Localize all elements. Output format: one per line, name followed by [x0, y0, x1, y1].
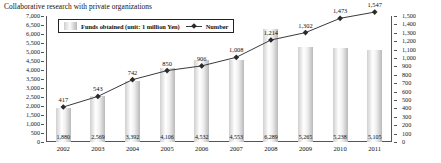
left-axis-tick — [41, 25, 44, 26]
right-axis-tick — [394, 50, 397, 51]
legend-bars-label: Funds obtained (unit: 1 million Yen) — [81, 23, 180, 30]
left-axis-tick — [41, 43, 44, 44]
right-axis-tick — [394, 41, 397, 42]
left-axis-tick — [41, 97, 44, 98]
right-axis-tick — [394, 75, 397, 76]
bar-value-label: 1,880 — [46, 134, 80, 140]
chart-legend: Funds obtained (unit: 1 million Yen) Num… — [58, 19, 234, 33]
left-axis-tick — [41, 61, 44, 62]
right-axis-tick-label: 1,000 — [402, 55, 416, 61]
line-value-label: 1,008 — [219, 47, 253, 53]
left-axis-tick-label: 2,000 — [26, 103, 40, 109]
right-axis-tick — [394, 125, 397, 126]
right-axis-tick-label: 200 — [402, 122, 411, 128]
x-axis-label: 2003 — [81, 146, 115, 153]
right-axis-tick — [394, 24, 397, 25]
right-axis-tick — [394, 66, 397, 67]
left-axis-tick-label: 4,000 — [26, 67, 40, 73]
left-axis-tick-label: 3,000 — [26, 85, 40, 91]
bar-value-label: 5,238 — [323, 134, 357, 140]
chart-title: Collaborative research with private orga… — [4, 2, 152, 11]
plot-area — [46, 16, 392, 142]
line-marker — [233, 54, 239, 60]
line-marker — [164, 68, 170, 74]
right-axis-tick-label: 800 — [402, 72, 411, 78]
right-axis-tick-label: 900 — [402, 63, 411, 69]
bar-value-label: 4,553 — [219, 134, 253, 140]
left-axis-tick-label: 7,000 — [26, 13, 40, 19]
left-axis-tick-label: 0 — [37, 139, 40, 145]
right-axis-tick-label: 700 — [402, 80, 411, 86]
left-axis-tick — [41, 16, 44, 17]
line-value-label: 742 — [116, 70, 150, 76]
left-axis-tick-label: 4,500 — [26, 58, 40, 64]
right-axis-tick-label: 400 — [402, 105, 411, 111]
right-axis-tick — [394, 83, 397, 84]
x-axis-label: 2009 — [289, 146, 323, 153]
line-marker — [199, 63, 205, 69]
right-axis-tick-label: 1,200 — [402, 38, 416, 44]
right-axis-tick — [394, 134, 397, 135]
right-axis-tick-label: 1,300 — [402, 30, 416, 36]
right-axis-tick-label: 300 — [402, 114, 411, 120]
bar-value-label: 5,105 — [358, 134, 392, 140]
left-axis-tick — [41, 133, 44, 134]
line-value-label: 850 — [150, 61, 184, 67]
bar-value-label: 4,106 — [150, 134, 184, 140]
left-axis-tick-label: 1,500 — [26, 112, 40, 118]
bar-value-label: 6,289 — [254, 134, 288, 140]
line-value-label: 1,214 — [254, 30, 288, 36]
legend-line-label: Number — [206, 23, 229, 30]
left-axis: 7,0006,5006,0005,5005,0004,5004,0003,500… — [0, 16, 44, 142]
bar-value-label: 4,532 — [185, 134, 219, 140]
left-axis-tick-label: 6,500 — [26, 22, 40, 28]
right-axis-tick-label: 100 — [402, 131, 411, 137]
right-axis-tick — [394, 142, 397, 143]
right-axis-tick — [394, 108, 397, 109]
x-axis-label: 2008 — [254, 146, 288, 153]
right-axis-tick — [394, 33, 397, 34]
x-axis-label: 2006 — [185, 146, 219, 153]
x-axis-label: 2011 — [358, 146, 392, 153]
left-axis-tick-label: 6,000 — [26, 31, 40, 37]
left-axis-tick-label: 5,000 — [26, 49, 40, 55]
line-marker — [130, 77, 136, 83]
chart-root: Collaborative research with private orga… — [0, 0, 441, 163]
right-axis-tick — [394, 117, 397, 118]
line-marker — [95, 94, 101, 100]
left-axis-tick-label: 1,000 — [26, 121, 40, 127]
right-axis-tick — [394, 92, 397, 93]
left-axis-tick — [41, 124, 44, 125]
line-value-label: 1,547 — [358, 2, 392, 8]
right-axis-tick-label: 600 — [402, 89, 411, 95]
line-marker — [372, 9, 378, 15]
line-marker — [268, 37, 274, 43]
right-axis-tick — [394, 16, 397, 17]
bar-value-label: 2,569 — [81, 134, 115, 140]
line-marker-icon — [186, 23, 202, 29]
right-axis-tick — [394, 100, 397, 101]
left-axis-tick-label: 2,500 — [26, 94, 40, 100]
line-series — [46, 16, 392, 142]
left-axis-tick — [41, 34, 44, 35]
line-value-label: 417 — [46, 97, 80, 103]
x-axis-label: 2010 — [323, 146, 357, 153]
left-axis-tick — [41, 88, 44, 89]
line-marker — [60, 104, 66, 110]
left-axis-tick — [41, 52, 44, 53]
x-axis-label: 2004 — [116, 146, 150, 153]
bar-swatch-icon — [64, 22, 77, 30]
x-axis-label: 2002 — [46, 146, 80, 153]
line-marker — [337, 15, 343, 21]
left-axis-tick — [41, 142, 44, 143]
bar-value-label: 5,265 — [289, 134, 323, 140]
line-marker — [303, 30, 309, 36]
line-value-label: 906 — [185, 56, 219, 62]
left-axis-tick — [41, 115, 44, 116]
line-value-label: 543 — [81, 86, 115, 92]
right-axis-tick — [394, 58, 397, 59]
left-axis-tick-label: 3,500 — [26, 76, 40, 82]
right-axis-tick-label: 500 — [402, 97, 411, 103]
right-axis-tick-label: 1,500 — [402, 13, 416, 19]
left-axis-tick-label: 5,500 — [26, 40, 40, 46]
